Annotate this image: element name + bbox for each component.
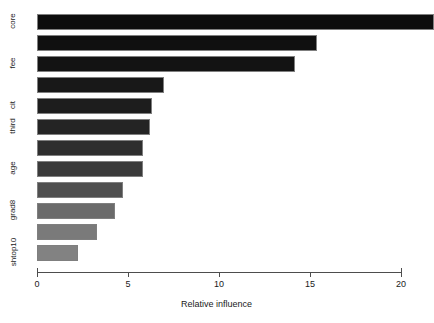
x-axis-tick-label: 20 bbox=[396, 279, 406, 289]
x-axis-tick-mark bbox=[401, 272, 402, 277]
y-axis-tick: age bbox=[0, 164, 26, 172]
y-axis-tick: fee bbox=[0, 59, 26, 67]
x-axis-tick-mark bbox=[219, 272, 220, 277]
x-axis-tick-label: 10 bbox=[214, 279, 224, 289]
y-axis-tick: core bbox=[0, 17, 26, 25]
x-axis-title: Relative influence bbox=[0, 299, 433, 309]
y-axis-tick-label: age bbox=[9, 161, 17, 174]
bar bbox=[37, 56, 295, 72]
y-axis-tick-label: third bbox=[9, 118, 17, 134]
x-axis-tick-mark bbox=[310, 272, 311, 277]
bar bbox=[37, 224, 97, 240]
y-axis-tick-label: cit bbox=[9, 101, 17, 109]
y-axis-tick-label: fee bbox=[9, 57, 17, 68]
y-axis-tick: shtop10 bbox=[0, 248, 26, 256]
bar bbox=[37, 203, 115, 219]
bar bbox=[37, 119, 150, 135]
y-axis-tick-label: grad8 bbox=[9, 200, 17, 220]
x-axis-tick-label: 0 bbox=[34, 279, 39, 289]
bar bbox=[37, 14, 434, 30]
bar bbox=[37, 98, 152, 114]
y-axis-tick-label: core bbox=[9, 13, 17, 29]
bar bbox=[37, 35, 317, 51]
y-axis-tick: grad8 bbox=[0, 206, 26, 214]
bar bbox=[37, 161, 143, 177]
x-axis-tick-label: 5 bbox=[125, 279, 130, 289]
bar bbox=[37, 182, 123, 198]
y-axis-tick: cit bbox=[0, 101, 26, 109]
x-axis-tick-mark bbox=[37, 272, 38, 277]
y-axis-tick: third bbox=[0, 122, 26, 130]
y-axis-tick-label: shtop10 bbox=[10, 238, 18, 266]
bar bbox=[37, 77, 164, 93]
x-axis-tick-label: 15 bbox=[305, 279, 315, 289]
x-axis-tick-mark bbox=[128, 272, 129, 277]
bar bbox=[37, 245, 78, 261]
bar bbox=[37, 140, 143, 156]
